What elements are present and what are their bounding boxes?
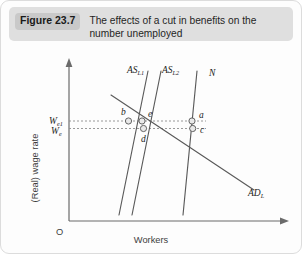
figure-number-badge: Figure 23.7 <box>15 13 80 30</box>
point-label-c: c <box>200 125 205 135</box>
point-label-b: b <box>121 107 126 117</box>
x-axis-arrowhead <box>280 218 289 225</box>
y-tick-label-we: We <box>51 126 62 137</box>
curve-label-ad-l-sub: L <box>260 192 265 199</box>
curve-as-l2 <box>132 71 161 215</box>
figure-caption: The effects of a cut in benefits on the … <box>89 12 287 40</box>
curve-label-as-l2-sub: L2 <box>172 69 180 76</box>
curve-label-ad-l-text: AD <box>247 188 261 198</box>
y-axis-title: (Real) wage rate <box>30 134 40 203</box>
point-label-e: e <box>148 109 152 119</box>
curve-label-as-l1: ASL1 <box>126 65 144 76</box>
point-c <box>190 125 196 131</box>
y-tick-labels-group: We1 We <box>49 116 63 137</box>
figure-caption-line-2: number unemployed <box>89 28 182 39</box>
point-a <box>189 118 195 124</box>
curves-group <box>111 71 254 215</box>
y-tick-we-sub: e <box>59 130 62 137</box>
x-axis-title: Workers <box>134 235 169 245</box>
point-b <box>125 118 131 124</box>
chart-svg: b e a d c ASL1 ASL2 N ADL <box>1 43 302 254</box>
point-label-d: d <box>141 134 146 144</box>
point-label-a: a <box>199 110 204 120</box>
curve-label-ad-l: ADL <box>247 188 265 199</box>
curve-label-n: N <box>208 68 216 78</box>
curve-ad-l <box>111 95 254 190</box>
y-axis-arrowhead <box>66 58 73 67</box>
curve-label-as-l2: ASL2 <box>161 65 179 76</box>
curve-label-as-l1-sub: L1 <box>137 69 145 76</box>
axis-titles-group: (Real) wage rate Workers O <box>30 134 169 245</box>
curve-label-as-l2-text: AS <box>161 65 173 75</box>
figure-header: Figure 23.7 The effects of a cut in bene… <box>9 7 293 41</box>
figure-container: Figure 23.7 The effects of a cut in bene… <box>0 0 302 254</box>
figure-caption-line-1: The effects of a cut in benefits on the <box>89 15 256 26</box>
axes-group <box>66 58 289 224</box>
curve-n <box>183 71 197 215</box>
point-e <box>139 118 145 124</box>
curve-label-as-l1-text: AS <box>126 65 138 75</box>
origin-label: O <box>56 227 63 237</box>
point-d <box>140 125 146 131</box>
chart-plot-area: b e a d c ASL1 ASL2 N ADL <box>1 43 302 254</box>
